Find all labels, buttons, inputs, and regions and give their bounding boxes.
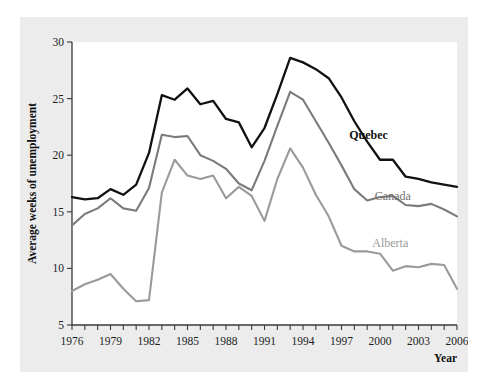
x-tick-label: 1991 [253,335,276,347]
y-tick-label: 20 [53,149,65,161]
plot-area [72,42,457,325]
figure-panel: 5101520253019761979198219851988199119941… [20,17,468,372]
x-tick-label: 1982 [138,335,161,347]
y-tick-label: 25 [53,93,65,105]
series-label-alberta: Alberta [372,236,409,250]
y-tick-label: 10 [53,262,65,274]
x-tick-label: 1988 [215,335,238,347]
chart-container: 5101520253019761979198219851988199119941… [20,17,468,372]
y-axis-title: Average weeks of unemployment [26,103,39,264]
series-label-quebec: Quebec [349,128,388,142]
y-tick-label: 30 [53,36,65,48]
y-tick-label: 5 [58,319,64,331]
x-tick-label: 2006 [446,335,469,347]
x-tick-label: 1976 [61,335,84,347]
series-label-canada: Canada [375,189,412,203]
x-axis-title: Year [434,352,457,364]
x-tick-label: 2000 [369,335,392,347]
x-tick-label: 1994 [292,335,315,347]
x-tick-label: 1979 [99,335,122,347]
x-tick-label: 1985 [176,335,199,347]
unemployment-line-chart: 5101520253019761979198219851988199119941… [20,17,468,372]
x-tick-label: 2003 [407,335,430,347]
y-tick-label: 15 [53,206,65,218]
x-tick-label: 1997 [330,335,353,347]
